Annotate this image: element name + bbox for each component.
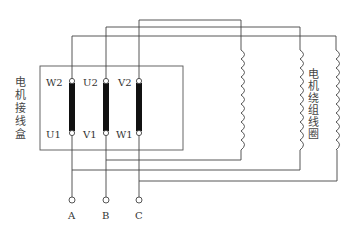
svg-text:盒: 盒 xyxy=(15,127,26,141)
motor-wiring-diagram: W2 U2 V2 U1 V1 W1 A B C 电 机 接 线 盒 电 机 绕 … xyxy=(0,0,359,240)
label-w2: W2 xyxy=(46,77,63,88)
wire-v2-top xyxy=(139,20,241,79)
label-u1: U1 xyxy=(46,129,61,140)
supply-terminal-a xyxy=(69,197,75,203)
coil-1 xyxy=(241,50,245,150)
svg-text:电: 电 xyxy=(15,76,26,89)
coil-3 xyxy=(336,50,340,150)
terminal-u1 xyxy=(69,130,74,135)
coil-2 xyxy=(300,50,304,150)
terminal-box-label: 电 机 接 线 盒 xyxy=(15,76,26,141)
wire-w2-top xyxy=(72,36,336,79)
label-c: C xyxy=(135,210,143,221)
link-bar-3 xyxy=(136,83,142,131)
link-bar-1 xyxy=(69,83,75,131)
label-v1: V1 xyxy=(82,129,97,140)
wire-u2-top xyxy=(106,27,300,79)
terminal-v2 xyxy=(136,78,141,83)
svg-text:线: 线 xyxy=(15,114,26,128)
wire-c-coil3 xyxy=(139,150,337,181)
winding-coil-label: 电 机 绕 组 线 圈 xyxy=(308,68,319,141)
supply-terminal-b xyxy=(103,197,109,203)
svg-text:组: 组 xyxy=(308,103,319,117)
svg-text:机: 机 xyxy=(308,79,319,93)
label-b: B xyxy=(102,210,109,221)
terminal-u2 xyxy=(103,78,108,83)
svg-text:接: 接 xyxy=(15,102,26,115)
terminal-w2 xyxy=(69,78,74,83)
svg-text:线: 线 xyxy=(308,115,319,129)
terminal-w1 xyxy=(136,130,141,135)
label-u2: U2 xyxy=(83,77,98,88)
svg-text:机: 机 xyxy=(15,88,26,102)
wire-b-coil1 xyxy=(106,150,241,160)
link-bar-2 xyxy=(103,83,109,131)
terminal-v1 xyxy=(103,130,108,135)
label-v2: V2 xyxy=(117,77,132,88)
supply-terminal-c xyxy=(136,197,142,203)
label-a: A xyxy=(67,210,76,221)
label-w1: W1 xyxy=(116,129,133,140)
svg-text:圈: 圈 xyxy=(308,128,319,141)
